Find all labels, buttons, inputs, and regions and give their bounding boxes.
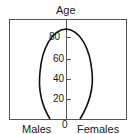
males-label: Males	[22, 123, 51, 134]
tick-label-80: 80	[40, 32, 60, 42]
pyramid-diagram	[0, 0, 130, 134]
females-label: Females	[77, 123, 119, 134]
tick-label-20: 20	[44, 94, 64, 104]
frame-box	[10, 20, 127, 120]
age-title: Age	[56, 4, 76, 16]
origin-label: 0	[62, 119, 68, 131]
tick-label-60: 60	[44, 54, 64, 64]
tick-label-40: 40	[44, 74, 64, 84]
